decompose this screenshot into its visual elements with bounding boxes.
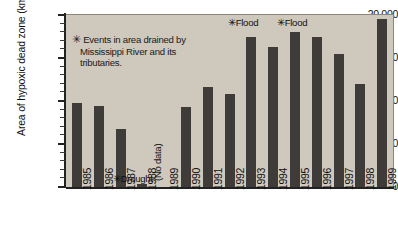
y-axis-minor-tick	[60, 160, 65, 161]
y-axis-major-tick	[58, 186, 66, 188]
bar-1997	[334, 54, 344, 187]
y-axis-major-tick	[58, 57, 66, 59]
y-axis-minor-tick	[60, 177, 65, 178]
x-axis-tick-label-1998: 1998	[364, 150, 376, 190]
bar-1992	[225, 94, 235, 187]
asterisk-icon: ✳	[228, 17, 236, 28]
x-axis-tick-label-1996: 1996	[321, 150, 333, 190]
annotation-no-data-1989: (No data)	[152, 144, 163, 181]
asterisk-icon: ✳	[72, 33, 81, 45]
x-axis-tick-label-1994: 1994	[277, 150, 289, 190]
y-axis-title-text: Area of hypoxic dead zone (km	[15, 0, 27, 136]
y-axis-minor-tick	[60, 126, 65, 127]
y-axis-minor-tick	[60, 91, 65, 92]
y-axis-minor-tick	[60, 117, 65, 118]
x-axis-tick-label-1997: 1997	[343, 150, 355, 190]
x-axis-tick-label-1989: 1989	[168, 150, 180, 190]
asterisk-icon: ✳	[113, 173, 121, 184]
y-axis-minor-tick	[60, 134, 65, 135]
annotation-flood-1995: ✳Flood	[277, 17, 307, 28]
footnote-line-1: Events in area drained by	[83, 34, 186, 45]
x-axis-tick-label-1995: 1995	[299, 150, 311, 190]
annotation-flood-1993-text: Flood	[236, 17, 259, 28]
x-axis-tick-label-1993: 1993	[255, 150, 267, 190]
y-axis-minor-tick	[60, 31, 65, 32]
x-axis-tick-label-1985: 1985	[81, 150, 93, 190]
x-axis-tick-label-1999: 1999	[386, 150, 398, 190]
y-axis-minor-tick	[60, 48, 65, 49]
footnote-line-3: tributaries.	[72, 57, 122, 68]
y-axis-minor-tick	[60, 40, 65, 41]
chart-figure: Area of hypoxic dead zone (km2) 05,00010…	[0, 0, 398, 229]
x-axis-tick-label-1986: 1986	[103, 150, 115, 190]
y-axis-title: Area of hypoxic dead zone (km2)	[13, 0, 27, 163]
asterisk-icon: ✳	[277, 17, 285, 28]
y-axis-minor-tick	[60, 66, 65, 67]
y-axis-major-tick	[58, 143, 66, 145]
y-axis-minor-tick	[60, 109, 65, 110]
y-axis-minor-tick	[60, 152, 65, 153]
y-axis-major-tick	[58, 14, 66, 16]
y-axis-minor-tick	[60, 169, 65, 170]
y-axis-minor-tick	[60, 74, 65, 75]
y-axis-minor-tick	[60, 83, 65, 84]
annotation-flood-1993: ✳Flood	[228, 17, 258, 28]
y-axis-major-tick	[58, 100, 66, 102]
annotation-flood-1995-text: Flood	[285, 17, 308, 28]
x-axis-tick-label-1992: 1992	[234, 150, 246, 190]
y-axis-minor-tick	[60, 23, 65, 24]
x-axis-tick-label-1991: 1991	[212, 150, 224, 190]
footnote-line-2: Mississippi River and its	[72, 46, 176, 57]
x-axis-tick-label-1987: 1987	[125, 150, 137, 190]
annotation-drought-1988-text: Drought	[121, 173, 153, 184]
footnote-annotation: ✳ Events in area drained by Mississippi …	[72, 34, 252, 69]
annotation-drought-1988: ✳Drought	[113, 173, 153, 184]
x-axis-tick-label-1990: 1990	[190, 150, 202, 190]
